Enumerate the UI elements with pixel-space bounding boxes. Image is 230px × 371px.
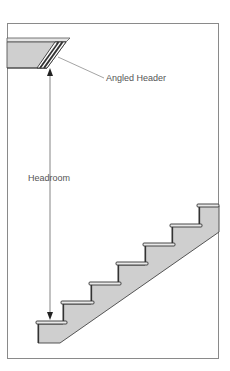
angled-header-label: Angled Header — [106, 73, 166, 83]
stair-headroom-diagram — [0, 0, 230, 371]
stair-tread — [36, 321, 67, 324]
headroom-dimension-arrow — [47, 68, 53, 320]
headroom-label: Headroom — [28, 173, 70, 183]
stair-tread — [89, 282, 121, 285]
stair-tread — [197, 204, 219, 207]
angled-header-leader — [58, 57, 104, 78]
staircase — [36, 204, 219, 343]
stair-tread — [170, 224, 202, 227]
stair-tread — [116, 262, 148, 265]
stair-tread — [143, 243, 175, 246]
stair-tread — [61, 301, 94, 304]
